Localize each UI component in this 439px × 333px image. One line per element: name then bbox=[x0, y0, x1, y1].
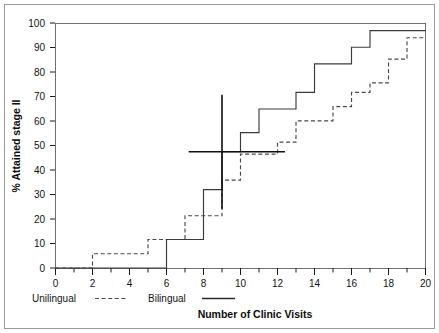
y-axis-labels: 0 10 20 30 40 50 60 70 80 90 100 bbox=[28, 18, 45, 274]
x-tick-label-14: 14 bbox=[309, 278, 321, 289]
chart-legend: Unilingual Bilingual bbox=[32, 293, 235, 304]
series-line-unilingual bbox=[56, 38, 426, 268]
y-tick-label-90: 90 bbox=[34, 42, 46, 53]
x-axis-title: Number of Clinic Visits bbox=[198, 308, 313, 320]
y-tick-label-40: 40 bbox=[34, 165, 46, 176]
x-tick-label-2: 2 bbox=[90, 278, 96, 289]
x-tick-label-10: 10 bbox=[235, 278, 247, 289]
data-series-group bbox=[56, 31, 426, 268]
x-tick-label-16: 16 bbox=[346, 278, 358, 289]
y-tick-label-10: 10 bbox=[34, 238, 46, 249]
y-tick-label-0: 0 bbox=[39, 263, 45, 274]
y-tick-label-70: 70 bbox=[34, 91, 46, 102]
y-tick-label-30: 30 bbox=[34, 189, 46, 200]
y-tick-label-50: 50 bbox=[34, 140, 46, 151]
figure-container: 0 10 20 30 40 50 60 70 80 90 100 bbox=[0, 0, 439, 333]
x-tick-label-4: 4 bbox=[127, 278, 133, 289]
y-tick-label-60: 60 bbox=[34, 116, 46, 127]
x-tick-label-6: 6 bbox=[164, 278, 170, 289]
y-tick-label-20: 20 bbox=[34, 214, 46, 225]
y-tick-label-100: 100 bbox=[28, 18, 45, 29]
x-axis-labels: 0 2 4 6 8 10 12 14 16 18 20 bbox=[53, 278, 432, 289]
step-chart-svg: 0 10 20 30 40 50 60 70 80 90 100 bbox=[0, 0, 439, 333]
x-tick-label-18: 18 bbox=[383, 278, 395, 289]
x-tick-label-0: 0 bbox=[53, 278, 59, 289]
chart-plot-area: 0 10 20 30 40 50 60 70 80 90 100 bbox=[0, 0, 439, 333]
legend-label-unilingual: Unilingual bbox=[32, 293, 76, 304]
y-axis-title: % Attained stage II bbox=[10, 99, 22, 192]
legend-label-bilingual: Bilingual bbox=[148, 293, 186, 304]
y-axis-ticks bbox=[50, 23, 55, 268]
series-line-bilingual bbox=[56, 31, 426, 268]
y-tick-label-80: 80 bbox=[34, 67, 46, 78]
x-tick-label-8: 8 bbox=[201, 278, 207, 289]
x-tick-label-12: 12 bbox=[272, 278, 284, 289]
x-tick-label-20: 20 bbox=[420, 278, 432, 289]
